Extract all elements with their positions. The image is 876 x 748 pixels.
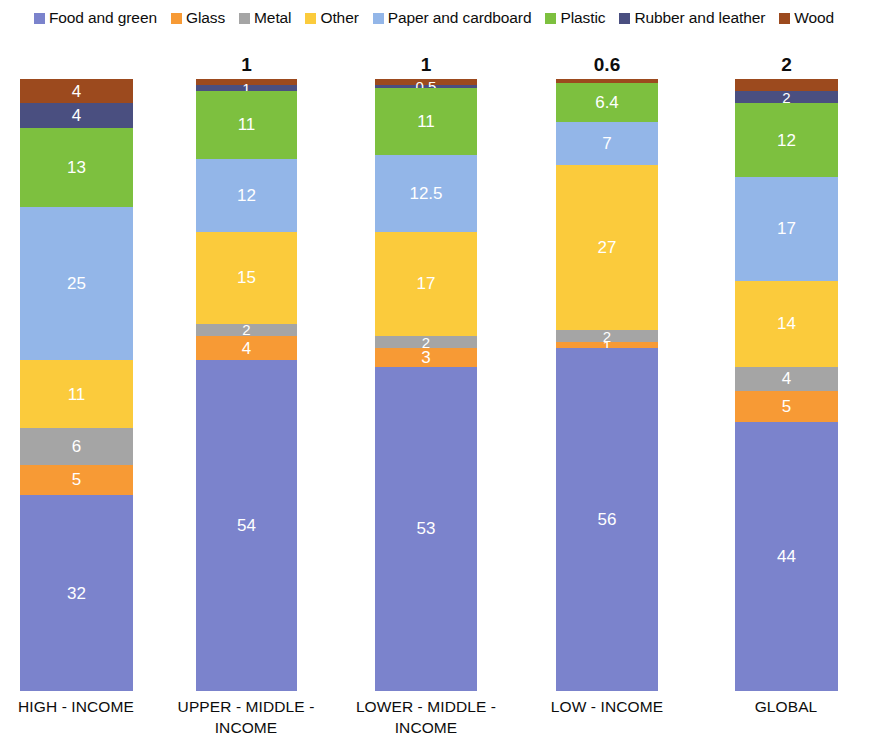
stacked-bar[interactable]: 6.47272156 <box>556 79 658 691</box>
legend-swatch-icon <box>779 13 790 24</box>
bar-segment-plastic[interactable]: 13 <box>20 128 133 208</box>
bar-segment-glass[interactable]: 4 <box>196 336 297 360</box>
legend-item-label: Rubber and leather <box>634 10 765 26</box>
bar-segment-other[interactable]: 15 <box>196 232 297 324</box>
bar-segment-rubber-and-leather[interactable]: 4 <box>20 103 133 127</box>
bar-segment-value: 25 <box>67 275 86 292</box>
legend-item-wood[interactable]: Wood <box>779 10 834 26</box>
bar-segment-paper-and-cardboard[interactable]: 7 <box>556 122 658 165</box>
legend-swatch-icon <box>619 13 630 24</box>
bar-segment-metal[interactable]: 6 <box>20 428 133 465</box>
bar-segment-paper-and-cardboard[interactable]: 17 <box>735 177 838 281</box>
bar-segment-plastic[interactable]: 12 <box>735 103 838 176</box>
stacked-bar[interactable]: 441325116532 <box>20 79 133 691</box>
stacked-bar[interactable]: 11112152454 <box>196 79 297 691</box>
bar-segment-value: 4 <box>242 340 251 357</box>
bar-segment-other[interactable]: 14 <box>735 281 838 367</box>
bar-segment-value: 7 <box>602 135 611 152</box>
axis-tick-label: GLOBAL <box>686 697 876 718</box>
bar-segment-value: 5 <box>72 471 81 488</box>
legend-item-glass[interactable]: Glass <box>171 10 225 26</box>
bar-segment-paper-and-cardboard[interactable]: 12.5 <box>375 155 477 232</box>
legend-item-label: Food and green <box>49 10 157 26</box>
bar-group: 0.66.47272156 <box>556 42 658 691</box>
bar-group: 441325116532 <box>20 42 133 691</box>
bar-segment-value: 17 <box>417 275 436 292</box>
bar-segment-wood[interactable] <box>735 79 838 91</box>
legend-item-other[interactable]: Other <box>305 10 358 26</box>
bar-segment-value: 13 <box>67 159 86 176</box>
bar-segment-food-and-green[interactable]: 32 <box>20 495 133 691</box>
bar-segment-metal[interactable]: 2 <box>196 324 297 336</box>
category-axis: HIGH - INCOMEUPPER - MIDDLE -INCOMELOWER… <box>0 691 876 748</box>
stacked-bar[interactable]: 21217144544 <box>735 79 838 691</box>
bar-segment-plastic[interactable]: 6.4 <box>556 83 658 122</box>
bar-segment-other[interactable]: 27 <box>556 165 658 330</box>
bar-segment-value: 11 <box>417 113 435 130</box>
legend-item-label: Other <box>320 10 358 26</box>
bar-segment-food-and-green[interactable]: 53 <box>375 367 477 691</box>
bar-segment-other[interactable]: 17 <box>375 232 477 336</box>
legend-item-label: Wood <box>794 10 834 26</box>
bar-segment-wood[interactable]: 4 <box>20 79 133 103</box>
bar-segment-value: 12 <box>777 132 796 149</box>
axis-tick-line: LOWER - MIDDLE - <box>326 697 526 718</box>
bar-segment-value: 32 <box>67 585 86 602</box>
legend-item-metal[interactable]: Metal <box>239 10 291 26</box>
legend-item-food-and-green[interactable]: Food and green <box>34 10 157 26</box>
bar-segment-value: 6 <box>72 438 81 455</box>
legend-item-paper-and-cardboard[interactable]: Paper and cardboard <box>373 10 532 26</box>
bar-segment-food-and-green[interactable]: 44 <box>735 422 838 691</box>
bar-segment-value: 53 <box>417 520 436 537</box>
bar-segment-value: 11 <box>238 116 256 133</box>
bar-top-value-label: 2 <box>735 55 838 74</box>
axis-tick-line: GLOBAL <box>686 697 876 718</box>
bar-segment-paper-and-cardboard[interactable]: 25 <box>20 207 133 360</box>
chart-plot-area: 44132511653211111215245410.51112.5172353… <box>0 36 876 691</box>
stacked-bar[interactable]: 0.51112.5172353 <box>375 79 477 691</box>
legend-swatch-icon <box>34 13 45 24</box>
bar-segment-value: 44 <box>777 548 796 565</box>
chart-legend: Food and greenGlassMetalOtherPaper and c… <box>0 0 876 36</box>
bar-segment-food-and-green[interactable]: 56 <box>556 348 658 691</box>
bar-segment-metal[interactable]: 4 <box>735 367 838 391</box>
legend-swatch-icon <box>239 13 250 24</box>
bar-segment-glass[interactable]: 5 <box>20 465 133 496</box>
bar-group: 221217144544 <box>735 42 838 691</box>
bar-segment-metal[interactable]: 2 <box>556 330 658 342</box>
bar-segment-value: 15 <box>237 269 256 286</box>
bar-segment-plastic[interactable]: 11 <box>196 91 297 158</box>
bar-segment-other[interactable]: 11 <box>20 360 133 427</box>
bar-segment-glass[interactable]: 3 <box>375 348 477 366</box>
axis-tick-line: LOW - INCOME <box>507 697 707 718</box>
bar-segment-value: 56 <box>598 511 617 528</box>
axis-tick-label: UPPER - MIDDLE -INCOME <box>146 697 346 739</box>
bar-group: 10.51112.5172353 <box>375 42 477 691</box>
bar-top-value-label: 1 <box>375 55 477 74</box>
bar-segment-glass[interactable]: 5 <box>735 391 838 422</box>
legend-item-label: Plastic <box>560 10 605 26</box>
bar-segment-metal[interactable]: 2 <box>375 336 477 348</box>
bar-segment-paper-and-cardboard[interactable]: 12 <box>196 159 297 232</box>
legend-item-label: Metal <box>254 10 291 26</box>
bar-segment-plastic[interactable]: 11 <box>375 88 477 155</box>
legend-item-label: Paper and cardboard <box>388 10 532 26</box>
bar-segment-rubber-and-leather[interactable]: 2 <box>735 91 838 103</box>
bar-segment-value: 3 <box>421 349 430 366</box>
legend-item-rubber-and-leather[interactable]: Rubber and leather <box>619 10 765 26</box>
legend-item-label: Glass <box>186 10 225 26</box>
axis-tick-line: UPPER - MIDDLE - <box>146 697 346 718</box>
bar-segment-value: 4 <box>72 107 81 124</box>
bar-segment-value: 54 <box>237 517 256 534</box>
axis-tick-line: INCOME <box>146 718 346 739</box>
legend-swatch-icon <box>171 13 182 24</box>
bar-segment-value: 27 <box>598 239 617 256</box>
legend-swatch-icon <box>305 13 316 24</box>
axis-tick-line: INCOME <box>326 718 526 739</box>
bar-segment-value: 14 <box>777 315 796 332</box>
bar-segment-value: 6.4 <box>595 94 619 111</box>
bar-top-value-label: 0.6 <box>556 55 658 74</box>
bar-group: 111112152454 <box>196 42 297 691</box>
bar-segment-food-and-green[interactable]: 54 <box>196 360 297 690</box>
legend-item-plastic[interactable]: Plastic <box>545 10 605 26</box>
